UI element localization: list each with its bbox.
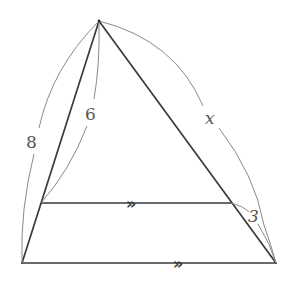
label-outer-left: 8 xyxy=(26,132,37,152)
apex-point xyxy=(98,20,101,23)
label-inner-left: 6 xyxy=(85,104,96,124)
label-x: x xyxy=(205,108,215,128)
parallel-marker-upper: » xyxy=(126,194,136,213)
similar-triangles-diagram: 8 6 x 3 » » xyxy=(0,0,301,292)
parallel-marker-lower: » xyxy=(173,254,183,273)
label-3: 3 xyxy=(248,206,259,226)
right-side-line xyxy=(99,21,276,263)
arc-inner-left-lower xyxy=(41,126,87,203)
